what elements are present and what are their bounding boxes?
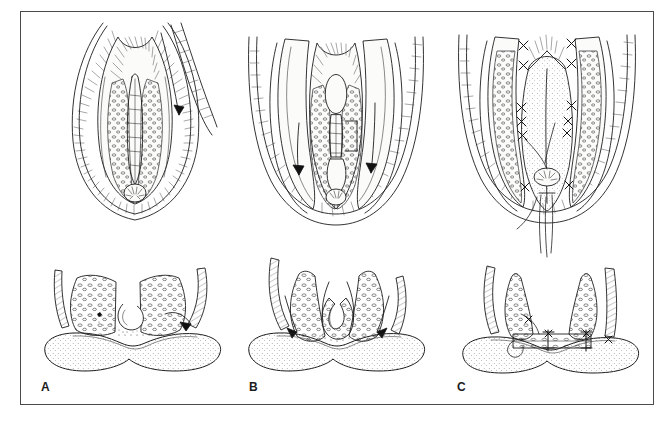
panel-b-top-view — [241, 17, 431, 232]
panel-b-cross-section — [241, 252, 433, 377]
panel-c-label: C — [457, 380, 466, 394]
panel-c-top-view — [451, 17, 647, 267]
panel-c: C — [435, 12, 655, 404]
panel-c-cross-section — [453, 252, 649, 377]
figure-frame: A — [20, 11, 654, 405]
panel-b: B — [227, 12, 439, 404]
panel-a-label: A — [41, 380, 50, 394]
panel-a-cross-section — [37, 252, 227, 377]
panel-a: A — [21, 12, 232, 404]
panel-a-top-view — [57, 17, 217, 232]
panel-b-label: B — [249, 380, 258, 394]
figure-root: A — [0, 0, 671, 422]
